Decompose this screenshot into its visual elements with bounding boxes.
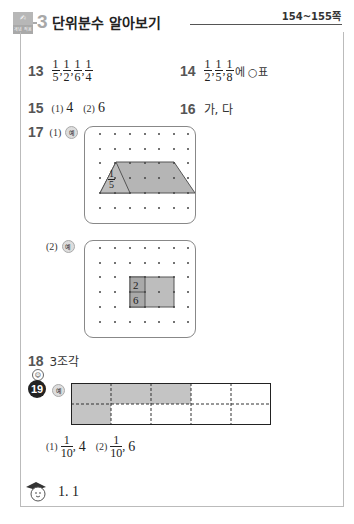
part-value: 4 bbox=[79, 439, 86, 455]
part-label: (2) bbox=[96, 441, 108, 452]
answer-15: 15 (1) 4 (2) 6 bbox=[28, 100, 105, 116]
fraction: 15 bbox=[215, 58, 223, 83]
graduate-character-icon bbox=[24, 480, 50, 502]
fraction: 12 bbox=[63, 58, 71, 83]
part-label: (1) bbox=[46, 441, 58, 452]
fraction: 110 bbox=[61, 434, 73, 459]
question-number: 13 bbox=[28, 63, 44, 79]
fraction: 16 bbox=[74, 58, 82, 83]
dot-board-1: 15 bbox=[84, 126, 196, 224]
section-badge: ✍ 개념 적용 bbox=[13, 12, 33, 34]
example-mark: 예 bbox=[65, 126, 78, 139]
fraction: 14 bbox=[85, 58, 93, 83]
answer-16: 16 가, 다 bbox=[180, 100, 233, 117]
tenths-grid bbox=[71, 383, 271, 425]
fraction: 110 bbox=[110, 434, 122, 459]
part-value: 6 bbox=[128, 439, 135, 455]
unit-number: 3 bbox=[37, 11, 48, 33]
question-number: 18 bbox=[28, 353, 44, 369]
header-rule bbox=[190, 24, 342, 25]
question-number: 15 bbox=[28, 100, 44, 116]
answer-17-part2-label: (2) 예 bbox=[46, 240, 75, 253]
bonus-answer: 1. 1 bbox=[58, 484, 79, 500]
part-label: (2) bbox=[46, 241, 58, 252]
part-label: (1) bbox=[50, 127, 62, 138]
dot-board-2: 2 6 bbox=[84, 240, 196, 338]
answer-19-parts: (1) 110, 4 (2) 110, 6 bbox=[46, 434, 135, 459]
numerator: 2 bbox=[133, 278, 139, 292]
page-title: 단위분수 알아보기 bbox=[52, 12, 161, 32]
part-label: (1) bbox=[52, 103, 64, 114]
part-value: 6 bbox=[98, 100, 105, 116]
question-number: 16 bbox=[180, 101, 196, 117]
answer-17-label: 17 (1) 예 bbox=[28, 124, 78, 140]
question-19-badge: 19 bbox=[28, 380, 46, 398]
circle-mark-text: 에 ○표 bbox=[235, 63, 268, 79]
example-mark: 예 bbox=[52, 384, 65, 397]
answer-value: 가, 다 bbox=[204, 100, 234, 117]
question-number: 14 bbox=[180, 63, 196, 79]
part-value: 4 bbox=[66, 100, 73, 116]
answer-value: 3조각 bbox=[50, 352, 80, 369]
fraction-grid bbox=[71, 383, 271, 425]
answer-14: 14 12, 15, 18 에 ○표 bbox=[180, 58, 268, 83]
fraction-label: 15 bbox=[108, 169, 115, 190]
trapezoid-diagram bbox=[85, 127, 195, 223]
fraction: 12 bbox=[204, 58, 212, 83]
page-range: 154~155쪽 bbox=[282, 8, 341, 23]
fraction: 18 bbox=[226, 58, 234, 83]
denominator: 6 bbox=[133, 293, 139, 307]
pencil-icon: ✍ bbox=[13, 12, 33, 25]
answer-13: 13 15, 12, 16, 14 bbox=[28, 58, 93, 83]
rectangle-diagram bbox=[85, 241, 195, 337]
fraction: 15 bbox=[52, 58, 60, 83]
question-number: 17 bbox=[28, 124, 44, 140]
answer-18: 18 3조각 bbox=[28, 352, 79, 369]
part-label: (2) bbox=[83, 103, 95, 114]
example-mark: 예 bbox=[62, 240, 75, 253]
